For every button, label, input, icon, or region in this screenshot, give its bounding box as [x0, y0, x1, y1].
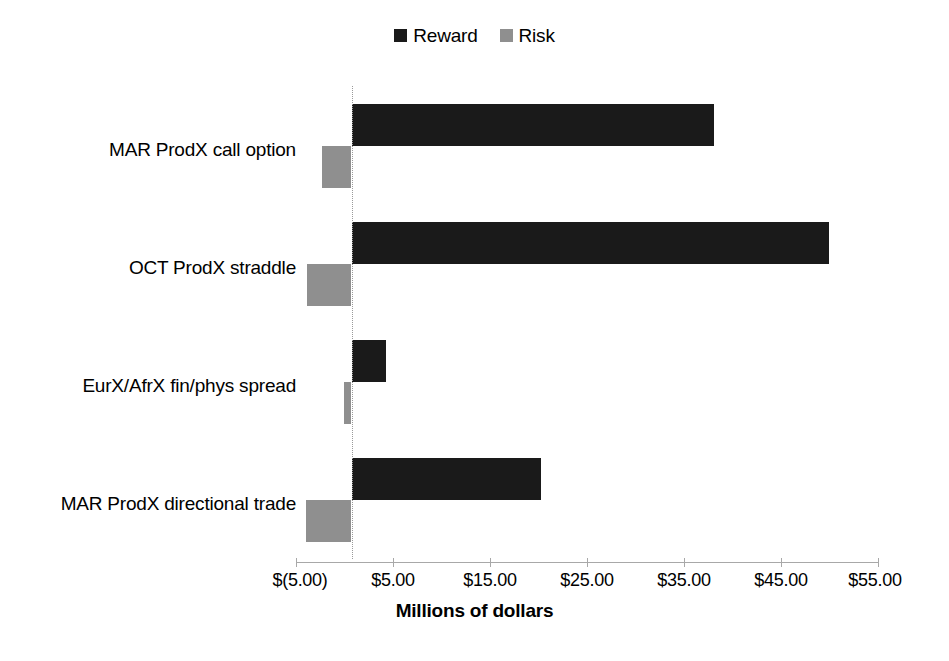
- category-label-eurx-afrx-fin-phys-spread: EurX/AfrX fin/phys spread: [82, 375, 296, 397]
- x-axis-tick-major-6: [878, 558, 879, 567]
- category-label-oct-prodx-straddle: OCT ProdX straddle: [129, 257, 296, 279]
- bar-chart: Reward Risk MAR ProdX call option OCT Pr…: [0, 0, 949, 661]
- x-axis-tick-label-3: $25.00: [560, 570, 613, 590]
- x-axis-tick-label-0: $(5.00): [273, 570, 328, 590]
- bar-reward-mar-prodx-directional-trade: [352, 458, 541, 500]
- x-axis-tick-label-1: $5.00: [371, 570, 415, 590]
- bar-risk-oct-prodx-straddle: [307, 264, 352, 306]
- x-axis-tick-major-0: [296, 558, 297, 567]
- bar-reward-oct-prodx-straddle: [352, 222, 829, 264]
- x-axis-title: Millions of dollars: [0, 600, 949, 622]
- x-axis-tick-major-3: [587, 558, 588, 567]
- x-axis-tick-major-1: [393, 558, 394, 567]
- category-label-mar-prodx-call-option: MAR ProdX call option: [109, 139, 296, 161]
- category-label-mar-prodx-directional-trade: MAR ProdX directional trade: [61, 493, 296, 515]
- x-axis-tick-label-4: $35.00: [657, 570, 710, 590]
- plot-area: MAR ProdX call option OCT ProdX straddle…: [0, 0, 949, 661]
- bar-risk-mar-prodx-call-option: [322, 146, 351, 188]
- x-axis-tick-label-5: $45.00: [754, 570, 807, 590]
- x-axis-tick-label-6: $55.00: [848, 570, 901, 590]
- x-axis-tick-major-5: [781, 558, 782, 567]
- zero-reference-line: [352, 86, 353, 559]
- bar-reward-eurx-afrx-fin-phys-spread: [352, 340, 386, 382]
- x-axis-tick-major-4: [684, 558, 685, 567]
- bar-risk-mar-prodx-directional-trade: [306, 500, 352, 542]
- bar-reward-mar-prodx-call-option: [352, 104, 714, 146]
- x-axis-tick-label-2: $15.00: [463, 570, 516, 590]
- x-axis-tick-major-2: [490, 558, 491, 567]
- bar-risk-eurx-afrx-fin-phys-spread: [344, 382, 352, 424]
